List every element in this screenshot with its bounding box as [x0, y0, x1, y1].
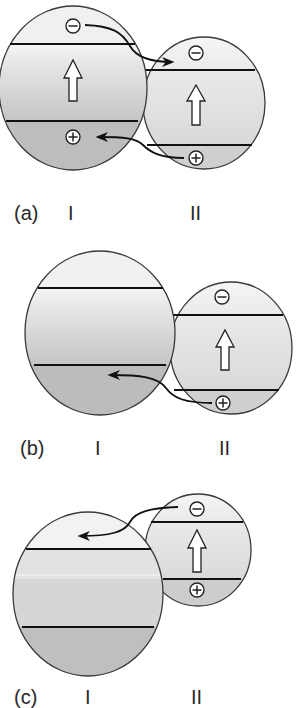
charge-transfer-diagram: (a) I II — [0, 0, 308, 708]
hole-icon — [190, 583, 204, 597]
panel-c: (c) I II — [8, 490, 260, 708]
system-i-circle — [20, 250, 180, 420]
system-label-i: I — [95, 437, 101, 459]
hole-icon — [66, 130, 80, 144]
panel-b: (b) I II — [20, 250, 295, 459]
electron-icon — [66, 19, 80, 33]
system-ii-circle — [165, 280, 295, 420]
panel-label: (b) — [20, 437, 44, 459]
system-label-i: I — [85, 686, 91, 708]
system-label-i: I — [68, 202, 74, 224]
panel-label: (c) — [14, 686, 37, 708]
system-label-ii: II — [191, 686, 202, 708]
hole-icon — [216, 396, 230, 410]
electron-icon — [215, 290, 229, 304]
panel-a: (a) I II — [0, 5, 270, 224]
system-label-ii: II — [219, 437, 230, 459]
system-label-ii: II — [190, 202, 201, 224]
electron-icon — [189, 46, 203, 60]
system-i-circle — [0, 5, 155, 176]
hole-icon — [189, 151, 203, 165]
panel-label: (a) — [14, 202, 38, 224]
electron-icon — [190, 502, 204, 516]
